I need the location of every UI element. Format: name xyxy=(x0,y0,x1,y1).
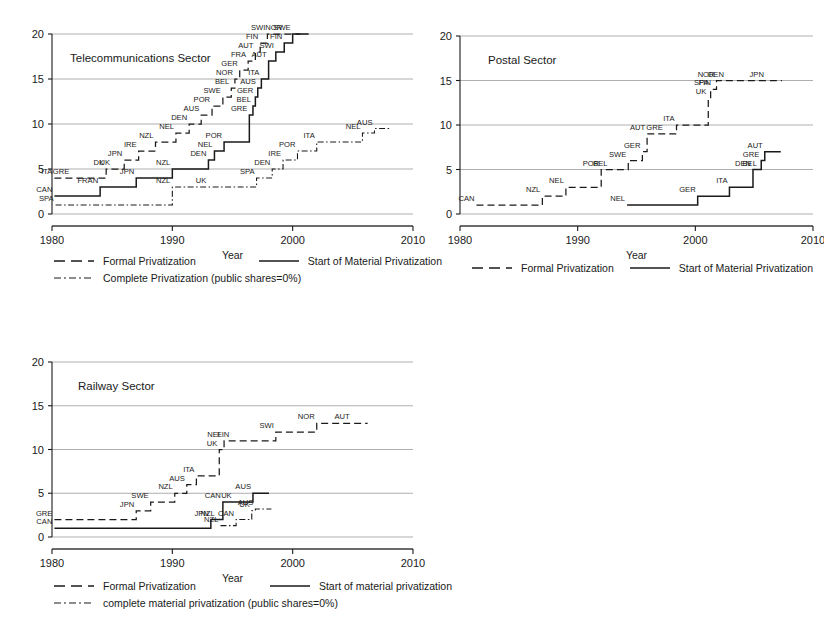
data-point-label: CAN xyxy=(205,491,221,500)
legend-entry-material: Start of material privatization xyxy=(268,580,452,592)
data-point-label: NZL xyxy=(204,515,218,524)
x-axis-tick-label: 2010 xyxy=(401,234,425,246)
legend-entry-material: Start of Material Privatization xyxy=(257,255,442,267)
y-axis-tick-label: 10 xyxy=(440,119,452,131)
data-point-label: NOR xyxy=(298,412,315,421)
telecom-legend: Formal Privatization Start of Material P… xyxy=(52,255,442,289)
data-point-label: GER xyxy=(679,185,696,194)
series-line-solid xyxy=(627,152,781,205)
data-point-label: BEL xyxy=(593,159,607,168)
data-point-label: AUT xyxy=(630,123,646,132)
data-point-label: NEL xyxy=(159,122,174,131)
data-point-label: AUT xyxy=(748,141,764,150)
data-point-label: NZL xyxy=(156,176,170,185)
x-axis-tick-label: 2000 xyxy=(683,234,707,246)
legend-key-solid-icon xyxy=(257,256,301,266)
railway-chart-svg: 051015201980199020002010YearRailway Sect… xyxy=(0,335,430,595)
legend-entry-complete: Complete Privatization (public shares=0%… xyxy=(52,272,301,284)
y-axis-tick-label: 20 xyxy=(32,28,44,40)
data-point-label: IRE xyxy=(124,140,137,149)
data-point-label: AUS xyxy=(238,498,254,507)
data-point-label: CAN xyxy=(36,517,52,526)
data-point-label: AUS xyxy=(169,474,185,483)
data-point-label: CAN xyxy=(36,185,52,194)
y-axis-tick-label: 0 xyxy=(446,208,452,220)
data-point-label: GER xyxy=(237,86,254,95)
legend-key-solid-icon xyxy=(628,263,672,273)
data-point-label: NEL xyxy=(549,176,564,185)
legend-entry-formal: Formal Privatization xyxy=(470,262,614,274)
y-axis-tick-label: 5 xyxy=(38,487,44,499)
data-point-label: DEN xyxy=(708,70,724,79)
data-point-label: FIN xyxy=(699,78,711,87)
data-point-label: BEL xyxy=(743,159,757,168)
y-axis-tick-label: 15 xyxy=(440,75,452,87)
y-axis-tick-label: 10 xyxy=(32,444,44,456)
data-point-label: NEL xyxy=(198,140,213,149)
data-point-label: IRE xyxy=(268,149,281,158)
postal-chart-svg: 051015201980199020002010YearPostal Secto… xyxy=(430,0,824,260)
data-point-label: SWE xyxy=(609,150,626,159)
data-point-label: FIN xyxy=(270,32,282,41)
data-point-label: GRE xyxy=(231,104,247,113)
data-point-label: GRE xyxy=(36,509,52,518)
y-axis-tick-label: 20 xyxy=(32,356,44,368)
data-point-label: AUS xyxy=(235,482,251,491)
legend-key-dashed-icon xyxy=(470,263,514,273)
data-point-label: SPA xyxy=(39,194,55,203)
chart-title: Telecommunications Sector xyxy=(70,52,211,64)
data-point-label: JPN xyxy=(120,167,134,176)
legend-entry-material: Start of Material Privatization xyxy=(628,262,813,274)
data-point-label: NZL xyxy=(139,131,153,140)
data-point-label: DEN xyxy=(171,113,187,122)
telecom-chart-svg: 051015201980199020002010YearTelecommunic… xyxy=(0,0,430,260)
x-axis-tick-label: 1990 xyxy=(160,557,184,569)
y-axis-tick-label: 15 xyxy=(32,73,44,85)
data-point-label: ITA xyxy=(716,176,728,185)
data-point-label: ITA xyxy=(248,68,260,77)
data-point-label: AUS xyxy=(357,118,373,127)
x-axis-tick-label: 1990 xyxy=(565,234,589,246)
legend-label-formal: Formal Privatization xyxy=(103,580,196,592)
data-point-label: SWI xyxy=(259,41,273,50)
postal-chart-panel: 051015201980199020002010YearPostal Secto… xyxy=(430,0,824,300)
data-point-label: AUT xyxy=(238,41,254,50)
data-point-label: SWI xyxy=(251,23,265,32)
data-point-label: JPN xyxy=(108,149,122,158)
legend-entry-formal: Formal Privatization xyxy=(52,580,196,592)
data-point-label: GER xyxy=(221,59,238,68)
x-axis-tick-label: 1990 xyxy=(160,234,184,246)
data-point-label: GRE xyxy=(743,150,759,159)
chart-title: Railway Sector xyxy=(78,380,155,392)
legend-entry-formal: Formal Privatization xyxy=(52,255,196,267)
y-axis-tick-label: 0 xyxy=(38,531,44,543)
legend-key-dashed-icon xyxy=(52,256,96,266)
data-point-label: SWI xyxy=(259,421,273,430)
data-point-label: GRE xyxy=(53,167,69,176)
legend-label-complete: complete material privatization (public … xyxy=(103,597,338,609)
legend-key-solid-icon xyxy=(268,581,312,591)
y-axis-tick-label: 10 xyxy=(32,118,44,130)
data-point-label: BEL xyxy=(237,95,251,104)
data-point-label: AUT xyxy=(251,50,267,59)
data-point-label: UK xyxy=(221,491,232,500)
chart-title: Postal Sector xyxy=(488,54,557,66)
data-point-label: ITA xyxy=(183,465,195,474)
data-point-label: CAN xyxy=(218,509,234,518)
data-point-label: UK xyxy=(100,158,111,167)
legend-row: complete material privatization (public … xyxy=(52,597,452,609)
data-point-label: CAN xyxy=(458,194,474,203)
y-axis-tick-label: 0 xyxy=(38,208,44,220)
data-point-label: ITA xyxy=(41,167,53,176)
postal-legend: Formal Privatization Start of Material P… xyxy=(470,262,820,279)
data-point-label: JPN xyxy=(120,500,134,509)
legend-key-dashdot-icon xyxy=(52,598,96,608)
x-axis-tick-label: 2010 xyxy=(801,234,824,246)
data-point-label: JPN xyxy=(750,70,764,79)
data-point-label: FRA xyxy=(231,50,247,59)
legend-row: Formal Privatization Start of material p… xyxy=(52,580,452,592)
data-point-label: POR xyxy=(279,140,296,149)
x-axis-tick-label: 2010 xyxy=(401,557,425,569)
data-point-label: FIN xyxy=(246,32,258,41)
x-axis-tick-label: 1980 xyxy=(448,234,472,246)
